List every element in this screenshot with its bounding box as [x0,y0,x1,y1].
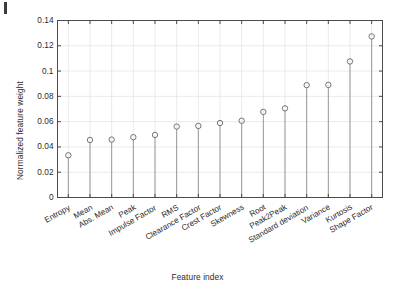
y-tick-label: 0.08 [37,91,53,101]
x-axis-title: Feature index [0,272,395,282]
y-tick-label: 0.14 [37,15,53,25]
y-tick-label: 0.12 [37,40,53,50]
y-axis-title: Normalized feature weight [15,81,25,180]
y-tick-label: 0.02 [37,167,53,177]
y-tick-label: 0.1 [42,66,54,76]
y-tick-label: 0 [49,192,54,202]
stem-plot [0,0,395,297]
y-tick-label: 0.06 [37,116,53,126]
y-tick-label: 0.04 [37,141,53,151]
figure-container: Normalized feature weight Feature index … [0,0,395,297]
